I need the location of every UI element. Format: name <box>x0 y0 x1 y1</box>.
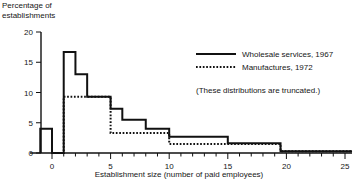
y-tick-label: 10 <box>24 89 33 98</box>
legend-label-0: Wholesale services, 1967 <box>242 50 334 59</box>
legend-label-1: Manufactures, 1972 <box>242 63 313 72</box>
y-tick-label: 20 <box>24 28 33 37</box>
y-tick-label: 5 <box>29 119 34 128</box>
x-axis-tick-group: 0510152025 <box>50 153 350 171</box>
x-axis-title: Establishment size (number of paid emplo… <box>0 170 358 179</box>
legend: Wholesale services, 1967 Manufactures, 1… <box>196 50 334 95</box>
y-axis-tick-group: 05101520 <box>24 28 41 158</box>
y-tick-label: 15 <box>24 58 33 67</box>
truncation-note: (These distributions are truncated.) <box>196 86 320 95</box>
series-manufactures-1972 <box>52 97 352 153</box>
histogram-chart: 05101520 0510152025 Wholesale services, … <box>0 0 358 189</box>
